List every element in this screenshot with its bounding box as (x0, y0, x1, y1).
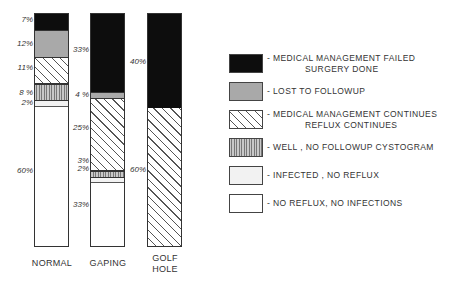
segment-failed (148, 14, 181, 108)
segment-continues (148, 108, 181, 246)
legend-swatch-infected (229, 166, 263, 185)
pct-normal-failed: 7% (3, 15, 33, 24)
pct-normal-noreflux: 60% (3, 166, 33, 175)
segment-continues (91, 99, 124, 171)
legend-swatch-failed (229, 54, 263, 73)
pct-gaping-continues: 25% (59, 123, 89, 132)
legend-label-noreflux: - NO REFLUX, NO INFECTIONS (267, 198, 403, 209)
pct-normal-lost: 12% (3, 39, 33, 48)
pct-gaping-noreflux: 33% (59, 200, 89, 209)
xlabel-golf-line1: GOLF (135, 253, 195, 264)
xlabel-golf-hole: GOLF HOLE (135, 253, 195, 275)
bar-gaping (90, 13, 125, 247)
legend-swatch-noreflux (229, 194, 263, 213)
legend-failed-line2: SURGERY DONE (267, 64, 415, 75)
legend-label-lost: - LOST TO FOLLOWUP (267, 86, 365, 97)
xlabel-normal: NORMAL (22, 258, 82, 269)
legend-swatch-continues (229, 110, 263, 129)
legend-label-continues: - MEDICAL MANAGEMENT CONTINUES REFLUX CO… (267, 109, 437, 131)
segment-continues (35, 58, 68, 84)
legend-label-infected: - INFECTED , NO REFLUX (267, 170, 379, 181)
pct-golf-failed: 40% (116, 57, 146, 66)
legend-label-well: - WELL , NO FOLLOWUP CYSTOGRAM (267, 142, 434, 153)
segment-noreflux (91, 183, 124, 246)
legend-label-failed: - MEDICAL MANAGEMENT FAILED SURGERY DONE (267, 53, 415, 75)
pct-normal-well: 8 % (3, 88, 33, 97)
pct-normal-continues: 11% (3, 63, 33, 72)
segment-lost (91, 92, 124, 99)
pct-golf-continues: 60% (116, 165, 146, 174)
legend-swatch-well (229, 138, 263, 157)
legend-continues-line1: - MEDICAL MANAGEMENT CONTINUES (267, 109, 437, 119)
bar-golf-hole (147, 13, 182, 247)
pct-gaping-infected: 2% (59, 164, 89, 173)
segment-failed (91, 14, 124, 92)
legend-failed-line1: - MEDICAL MANAGEMENT FAILED (267, 53, 415, 63)
pct-normal-infected: 2% (3, 98, 33, 107)
segment-failed (35, 14, 68, 30)
pct-gaping-lost: 4 % (59, 90, 89, 99)
pct-gaping-failed: 33% (59, 45, 89, 54)
xlabel-golf-line2: HOLE (135, 264, 195, 275)
xlabel-gaping: GAPING (78, 258, 138, 269)
legend-continues-line2: REFLUX CONTINUES (267, 120, 437, 131)
legend-swatch-lost (229, 82, 263, 101)
